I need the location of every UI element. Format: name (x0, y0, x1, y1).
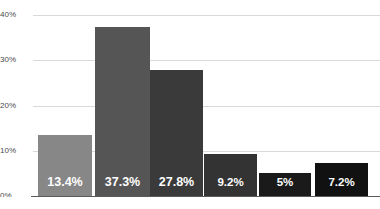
bar-3[interactable]: 27.8% (150, 70, 203, 196)
bar-value-label-2: 37.3% (105, 176, 140, 197)
bar-2[interactable]: 37.3% (95, 27, 150, 196)
bar-value-label-3: 27.8% (159, 176, 194, 197)
x-axis-area (0, 197, 380, 209)
bar-4[interactable]: 9.2% (204, 154, 257, 196)
bar-value-label-5: 5% (277, 176, 294, 197)
bar-chart: 0%10%20%30%40% 13.4%37.3%27.8%9.2%5%7.2% (0, 0, 380, 209)
bar-1[interactable]: 13.4% (38, 135, 92, 196)
bar-value-label-1: 13.4% (47, 176, 82, 197)
bar-value-label-4: 9.2% (217, 176, 243, 197)
bar-5[interactable]: 5% (259, 173, 311, 196)
bar-value-label-6: 7.2% (328, 176, 354, 197)
bar-6[interactable]: 7.2% (315, 163, 368, 196)
plot-area: 13.4%37.3%27.8%9.2%5%7.2% (0, 0, 380, 209)
